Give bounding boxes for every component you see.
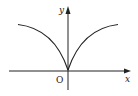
curve-left-branch bbox=[18, 25, 68, 71]
function-graph: y O x bbox=[0, 0, 138, 96]
y-axis-arrow-icon bbox=[66, 6, 71, 14]
x-axis-label: x bbox=[125, 74, 130, 84]
y-axis-label: y bbox=[58, 5, 65, 15]
curve-right-branch bbox=[68, 25, 118, 71]
x-axis-arrow-icon bbox=[124, 69, 131, 74]
origin-label: O bbox=[56, 75, 63, 85]
